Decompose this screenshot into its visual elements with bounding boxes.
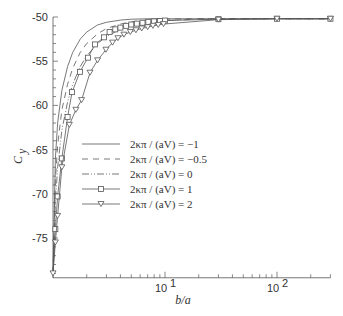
triangle-marker-icon (95, 58, 101, 63)
square-marker-icon (124, 23, 129, 28)
y-tick-label: -65 (32, 144, 48, 156)
square-marker-icon (101, 35, 106, 40)
svg-text:C: C (11, 155, 25, 164)
x-tick-exponent: 1 (170, 277, 176, 289)
legend-label: 2κπ / (aV) = −1 (130, 138, 199, 151)
x-tick-label: 10 (267, 282, 279, 294)
triangle-marker-icon (87, 70, 93, 75)
triangle-marker-icon (103, 47, 109, 52)
square-marker-icon (129, 22, 134, 27)
square-marker-icon (118, 25, 123, 30)
x-tick-label: 10 (155, 282, 167, 294)
triangle-marker-icon (145, 25, 151, 30)
triangle-marker-icon (79, 98, 85, 103)
square-marker-icon (92, 42, 97, 47)
triangle-marker-icon (66, 122, 72, 127)
y-axis-title: C y (11, 148, 29, 164)
svg-text:y: y (15, 148, 29, 155)
x-tick-exponent: 2 (282, 277, 288, 289)
legend-item-pos1: 2κπ / (aV) = 1 (82, 183, 193, 196)
triangle-marker-icon (133, 28, 139, 33)
legend-item-neg05: 2κπ / (aV) = −0.5 (82, 153, 207, 166)
legend-item-pos2: 2κπ / (aV) = 2 (82, 198, 193, 211)
square-marker-icon (113, 27, 118, 32)
x-axis-title: b/a (175, 293, 190, 307)
square-marker-icon (99, 187, 104, 192)
triangle-marker-icon (59, 165, 65, 170)
square-marker-icon (53, 227, 58, 232)
y-tick-label: -50 (32, 11, 48, 23)
y-tick-label: -70 (32, 188, 48, 200)
square-marker-icon (134, 21, 139, 26)
y-tick-label: -55 (32, 55, 48, 67)
y-tick-label: -75 (32, 232, 48, 244)
triangle-marker-icon (121, 32, 127, 37)
triangle-marker-icon (55, 213, 61, 218)
y-tick-label: -60 (32, 99, 48, 111)
square-marker-icon (65, 114, 70, 119)
triangle-marker-icon (73, 107, 79, 112)
legend-label: 2κπ / (aV) = −0.5 (130, 153, 207, 166)
square-marker-icon (70, 90, 75, 95)
legend-label: 2κπ / (aV) = 2 (130, 198, 193, 211)
triangle-marker-icon (127, 30, 133, 35)
legend-label: 2κπ / (aV) = 1 (130, 183, 193, 196)
legend-item-zero: 2κπ / (aV) = 0 (82, 168, 193, 181)
square-marker-icon (85, 55, 90, 60)
legend-item-neg1: 2κπ / (aV) = −1 (82, 138, 199, 151)
square-marker-icon (77, 69, 82, 74)
legend: 2κπ / (aV) = −1 2κπ / (aV) = −0.5 2κπ / … (82, 138, 207, 211)
legend-label: 2κπ / (aV) = 0 (130, 168, 193, 181)
chart-canvas: -50-55-60-65-70-75101102 2κπ / (aV) = −1… (0, 0, 343, 316)
triangle-marker-icon (139, 26, 145, 31)
square-marker-icon (107, 30, 112, 35)
